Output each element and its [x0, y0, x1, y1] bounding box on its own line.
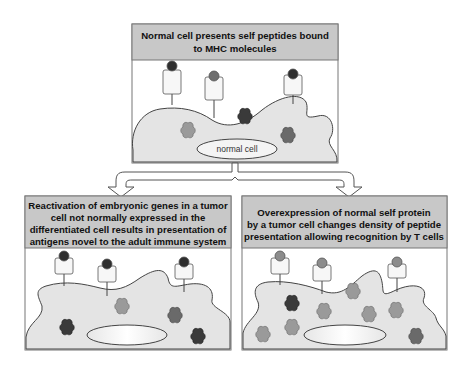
- protein-icon: [191, 328, 206, 343]
- panel-title-line: cell not normally expressed in the: [51, 212, 206, 223]
- protein-icon: [60, 319, 75, 334]
- panel-title-line: by a tumor cell changes density of pepti…: [247, 219, 441, 230]
- tumor-antigen-diagram: Normal cell presents self peptides bound…: [0, 0, 471, 370]
- nucleus: [87, 325, 167, 345]
- peptide-icon: [167, 61, 177, 71]
- panel-title-line: Reactivation of embryonic genes in a tum…: [28, 200, 228, 211]
- peptide-icon: [275, 251, 285, 261]
- split-arrow: [108, 163, 362, 197]
- protein-icon: [346, 283, 361, 298]
- protein-icon: [317, 303, 332, 318]
- protein-icon: [281, 127, 296, 142]
- panel-title-line: differentiated cell results in presentat…: [30, 224, 228, 235]
- protein-icon: [285, 319, 300, 334]
- protein-icon: [285, 295, 300, 310]
- protein-icon: [256, 326, 271, 341]
- protein-icon: [409, 328, 424, 343]
- panel-title-line: Normal cell presents self peptides bound: [141, 30, 329, 41]
- overexpression-panel: Overexpression of normal self protein by…: [242, 196, 447, 350]
- peptide-icon: [102, 259, 112, 269]
- nucleus-label: normal cell: [216, 144, 257, 154]
- peptide-icon: [209, 71, 219, 81]
- embryonic-reactivation-panel: Reactivation of embryonic genes in a tum…: [25, 196, 231, 350]
- protein-icon: [181, 122, 196, 137]
- protein-icon: [168, 307, 183, 322]
- peptide-icon: [392, 257, 402, 267]
- nucleus: [304, 325, 386, 345]
- protein-icon: [389, 302, 404, 317]
- normal-cell-panel: Normal cell presents self peptides bound…: [132, 24, 338, 163]
- protein-icon: [362, 306, 377, 321]
- panel-title-line: Overexpression of normal self protein: [257, 207, 430, 218]
- peptide-icon: [59, 251, 69, 261]
- peptide-icon: [179, 257, 189, 267]
- peptide-icon: [288, 69, 298, 79]
- panel-title-line: presentation allowing recognition by T c…: [244, 231, 444, 242]
- peptide-icon: [317, 258, 327, 268]
- protein-icon: [115, 298, 130, 313]
- panel-title-line: antigens novel to the adult immune syste…: [30, 236, 227, 247]
- protein-icon: [238, 108, 253, 123]
- panel-title-line: to MHC molecules: [193, 43, 276, 54]
